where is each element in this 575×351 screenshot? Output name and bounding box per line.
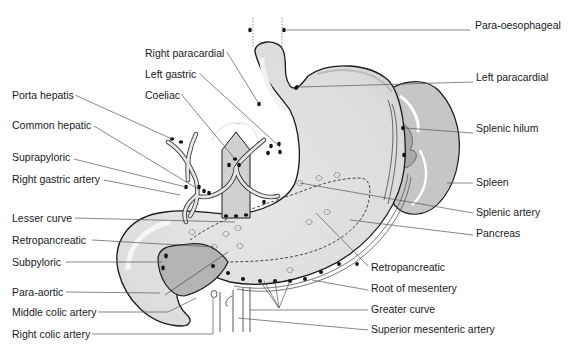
mesenteric-vessels (211, 287, 250, 332)
label-retropancreatic-right: Retropancreatic (371, 261, 445, 273)
label-spleen: Spleen (476, 176, 509, 188)
label-retropancreatic-left: Retropancreatic (12, 234, 86, 246)
label-right-gastric-artery: Right gastric artery (12, 173, 100, 185)
label-splenic-artery: Splenic artery (476, 206, 540, 218)
label-coeliac: Coeliac (145, 89, 180, 101)
label-pancreas: Pancreas (476, 227, 520, 239)
label-para-oesophageal: Para-oesophageal (475, 19, 561, 31)
label-greater-curve: Greater curve (371, 303, 435, 315)
label-para-aortic: Para-aortic (12, 286, 63, 298)
pylorus (158, 244, 228, 296)
label-lesser-curve: Lesser curve (12, 212, 72, 224)
label-root-of-mesentery: Root of mesentery (371, 282, 457, 294)
label-splenic-hilum: Splenic hilum (476, 122, 538, 134)
label-left-gastric: Left gastric (145, 68, 196, 80)
label-porta-hepatis: Porta hepatis (12, 89, 74, 101)
label-middle-colic-artery: Middle colic artery (12, 306, 97, 318)
stomach (117, 42, 411, 326)
label-subpyloric: Subpyloric (12, 256, 61, 268)
label-left-paracardial: Left paracardial (476, 71, 548, 83)
label-right-paracardial: Right paracardial (145, 47, 224, 59)
label-right-colic-artery: Right colic artery (12, 328, 90, 340)
label-common-hepatic: Common hepatic (12, 119, 91, 131)
label-superior-mesenteric-artery: Superior mesenteric artery (371, 323, 495, 335)
label-suprapyloric: Suprapyloric (12, 151, 70, 163)
